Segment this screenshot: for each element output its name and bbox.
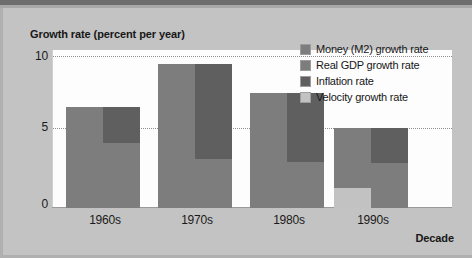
bar-group <box>66 50 144 208</box>
chart-legend: Money (M2) growth rateReal GDP growth ra… <box>300 42 428 104</box>
legend-item: Velocity growth rate <box>300 90 428 104</box>
bar-segment-money-m2 <box>334 128 371 188</box>
legend-label: Money (M2) growth rate <box>316 43 428 55</box>
x-axis-title: Decade <box>415 232 454 244</box>
bar-money-m2 <box>158 64 195 208</box>
y-tick-label-0: 0 <box>18 197 48 211</box>
bar-money-m2 <box>250 93 287 208</box>
legend-label: Real GDP growth rate <box>316 59 419 71</box>
bar-segment-inflation <box>195 64 232 159</box>
y-tick-label-5: 5 <box>18 120 48 134</box>
bar-segment-money-m2 <box>250 93 287 208</box>
bar-segment-inflation <box>371 128 408 164</box>
legend-swatch-icon <box>300 60 311 71</box>
x-tick-label: 1960s <box>70 213 140 227</box>
bar-money-m2 <box>66 107 103 208</box>
legend-swatch-icon <box>300 44 311 55</box>
bar-segment-real-gdp <box>287 162 324 208</box>
scan-left-edge <box>0 8 3 258</box>
bar-gdp-inflation-stack <box>287 93 324 208</box>
legend-swatch-icon <box>300 92 311 103</box>
chart-title: Growth rate (percent per year) <box>30 28 185 40</box>
x-tick-label: 1970s <box>162 213 232 227</box>
legend-label: Velocity growth rate <box>316 91 408 103</box>
bar-gdp-inflation-stack <box>103 107 140 208</box>
legend-swatch-icon <box>300 76 311 87</box>
legend-label: Inflation rate <box>316 75 374 87</box>
chart-figure: Growth rate (percent per year) 10 5 0 19… <box>0 0 472 258</box>
bar-gdp-inflation-stack <box>195 64 232 208</box>
legend-item: Money (M2) growth rate <box>300 42 428 56</box>
x-tick-label: 1980s <box>254 213 324 227</box>
bar-money-m2 <box>334 128 371 208</box>
bar-gdp-inflation-stack <box>371 128 408 208</box>
bar-group <box>158 50 236 208</box>
legend-item: Inflation rate <box>300 74 428 88</box>
legend-item: Real GDP growth rate <box>300 58 428 72</box>
bar-segment-real-gdp <box>103 143 140 208</box>
x-tick-label: 1990s <box>338 213 408 227</box>
y-tick-label-10: 10 <box>18 49 48 63</box>
bar-segment-money-m2 <box>66 107 103 208</box>
bar-segment-money-m2 <box>158 64 195 208</box>
bar-segment-real-gdp <box>371 163 408 208</box>
bar-segment-inflation <box>103 107 140 143</box>
bar-segment-real-gdp <box>195 159 232 208</box>
bar-segment-velocity <box>334 188 371 208</box>
